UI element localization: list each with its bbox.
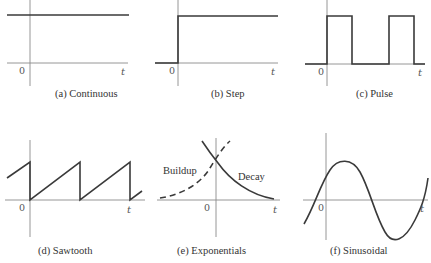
- step-signal: [155, 16, 278, 63]
- panel-exponentials: Buildup Decay 0 t (e) Exponentials: [157, 138, 280, 257]
- caption-step: (b) Step: [211, 88, 245, 100]
- decay-curve: [202, 141, 274, 199]
- t-label: t: [271, 66, 276, 77]
- caption-pulse: (c) Pulse: [356, 88, 393, 100]
- caption-continuous: (a) Continuous: [55, 88, 118, 100]
- origin-label: 0: [318, 202, 324, 213]
- pulse-signal: [305, 16, 425, 64]
- buildup-label: Buildup: [163, 165, 197, 176]
- origin-label: 0: [169, 65, 175, 76]
- panel-step: 0 t (b) Step: [155, 0, 278, 100]
- caption-sawtooth: (d) Sawtooth: [38, 245, 93, 257]
- panel-sinusoidal: 0 t (f) Sinusoidal: [303, 133, 428, 257]
- origin-label: 0: [204, 202, 210, 213]
- origin-label: 0: [318, 66, 324, 77]
- panel-pulse: 0 t (c) Pulse: [305, 0, 425, 100]
- t-label: t: [127, 204, 132, 215]
- caption-exponentials: (e) Exponentials: [177, 245, 246, 257]
- panel-continuous: 0 t (a) Continuous: [7, 0, 129, 100]
- origin-label: 0: [19, 202, 25, 213]
- t-label: t: [418, 67, 423, 78]
- sawtooth-signal: [7, 162, 142, 200]
- origin-label: 0: [19, 65, 25, 76]
- decay-label: Decay: [238, 171, 266, 182]
- t-label: t: [273, 204, 278, 215]
- t-label: t: [420, 203, 425, 214]
- panel-sawtooth: 0 t (d) Sawtooth: [5, 140, 145, 257]
- t-label: t: [121, 66, 126, 77]
- caption-sinusoidal: (f) Sinusoidal: [330, 245, 388, 257]
- waveform-figure: 0 t (a) Continuous 0 t (b) Step 0 t (c) …: [0, 0, 431, 263]
